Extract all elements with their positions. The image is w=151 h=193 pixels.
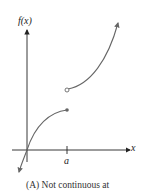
caption: (A) Not continuous at	[26, 180, 109, 190]
left-curve	[19, 110, 67, 172]
y-axis-label: f(x)	[18, 15, 32, 26]
closed-point	[65, 108, 69, 112]
x-axis-label: x	[131, 142, 135, 153]
tick-label-a: a	[64, 155, 69, 166]
graph	[0, 0, 151, 193]
open-point	[65, 88, 69, 92]
right-curve	[68, 23, 118, 89]
